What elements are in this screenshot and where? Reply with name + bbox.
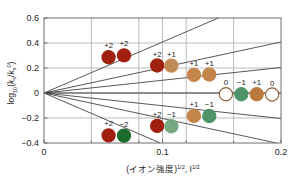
data-point-label: +1: [189, 100, 198, 109]
data-point-marker: [102, 51, 115, 64]
data-point-label: 0: [270, 79, 275, 88]
data-point-marker: [266, 88, 279, 101]
data-point-label: +2: [104, 41, 113, 50]
y-tick-label: 0: [34, 88, 39, 98]
data-point-marker: [219, 88, 232, 101]
data-point-label: 0: [224, 78, 229, 87]
data-point-marker: [187, 68, 200, 81]
y-tick-label: 0.4: [26, 38, 39, 48]
data-point-marker: [151, 59, 164, 72]
data-point-marker: [203, 109, 216, 122]
y-tick-label: −0.4: [21, 138, 39, 148]
data-point-label: +2: [104, 119, 113, 128]
data-point-marker: [235, 88, 248, 101]
data-point-marker: [117, 129, 130, 142]
x-tick-label: 0: [41, 147, 46, 157]
data-point-marker: [117, 49, 130, 62]
y-tick-label: 0.6: [26, 13, 39, 23]
data-point-label: −1: [237, 78, 246, 87]
x-tick-label: 0.2: [275, 147, 288, 157]
x-tick-label: 0.1: [156, 147, 169, 157]
data-point-label: −1: [205, 100, 214, 109]
chart-screenshot: 00.10.2 −0.4−0.200.20.40.6 +2+2+2+1+1+10…: [0, 0, 291, 181]
data-point-label: +1: [205, 59, 214, 68]
data-point-label: +1: [189, 59, 198, 68]
data-point-marker: [102, 129, 115, 142]
data-point-marker: [250, 88, 263, 101]
plot-svg: 00.10.2 −0.4−0.200.20.40.6 +2+2+2+1+1+10…: [0, 0, 291, 181]
data-point-label: +2: [153, 50, 162, 59]
y-tick-label: 0.2: [26, 63, 39, 73]
data-point-marker: [165, 59, 178, 72]
data-point-label: +1: [167, 50, 176, 59]
y-tick-label: −0.2: [21, 113, 39, 123]
data-point-label: +1: [252, 78, 261, 87]
data-point-marker: [151, 119, 164, 132]
data-point-label: −1: [167, 110, 176, 119]
data-point-label: −2: [120, 120, 129, 129]
data-point-marker: [203, 68, 216, 81]
data-point-label: +2: [120, 39, 129, 48]
data-point-label: +2: [153, 110, 162, 119]
svg-text:log10(ks/ks0): log10(ks/ks0): [6, 61, 18, 104]
ionic-strength-kinetics-chart: 00.10.2 −0.4−0.200.20.40.6 +2+2+2+1+1+10…: [0, 0, 291, 181]
x-axis-title: (イオン強度)1/2, I1/2: [126, 164, 199, 174]
svg-text:(イオン強度)1/2, I1/2: (イオン強度)1/2, I1/2: [126, 164, 199, 174]
data-point-marker: [165, 120, 178, 133]
y-axis-title: log10(ks/ks0): [6, 61, 18, 104]
data-point-marker: [187, 109, 200, 122]
